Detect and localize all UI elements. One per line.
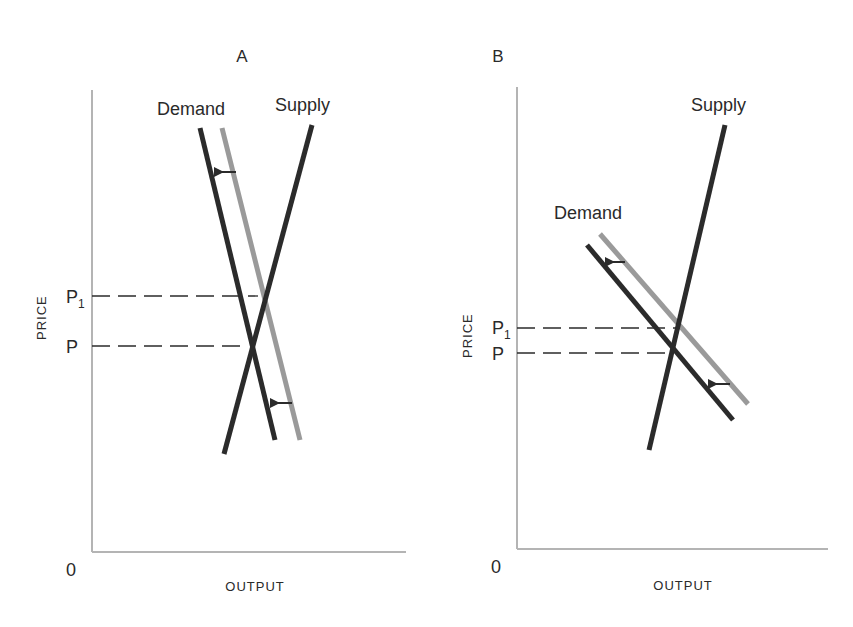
panel-a: A Demand Supply P1 P PRICE 0 OUTPUT bbox=[34, 47, 406, 594]
panel-a-p-label: P bbox=[66, 337, 78, 357]
supply-demand-figure: A Demand Supply P1 P PRICE 0 OUTPUT B De… bbox=[0, 0, 853, 627]
panel-a-supply-label: Supply bbox=[275, 95, 330, 115]
panel-b-x-axis-label: OUTPUT bbox=[653, 578, 712, 593]
panel-b-supply-label: Supply bbox=[691, 95, 746, 115]
panel-a-demand-curve bbox=[200, 128, 275, 440]
panel-b-original-demand-curve bbox=[600, 234, 748, 404]
panel-b-demand-label: Demand bbox=[554, 203, 622, 223]
panel-b-p-label: P bbox=[492, 344, 504, 364]
panel-b: B Demand Supply P1 P PRICE 0 OUTPUT bbox=[460, 47, 828, 593]
panel-a-original-demand-curve bbox=[222, 128, 300, 440]
panel-b-origin-label: 0 bbox=[491, 557, 501, 577]
panel-a-origin-label: 0 bbox=[66, 560, 76, 580]
panel-b-y-axis-label: PRICE bbox=[460, 313, 475, 358]
panel-b-supply-curve bbox=[649, 125, 725, 450]
panel-a-y-axis-label: PRICE bbox=[34, 295, 49, 340]
panel-a-demand-label: Demand bbox=[157, 99, 225, 119]
panel-a-p1-label: P1 bbox=[66, 287, 85, 311]
panel-a-title: A bbox=[236, 47, 248, 66]
panel-a-x-axis-label: OUTPUT bbox=[225, 579, 284, 594]
panel-b-p1-label: P1 bbox=[492, 318, 511, 342]
panel-b-title: B bbox=[492, 47, 503, 66]
